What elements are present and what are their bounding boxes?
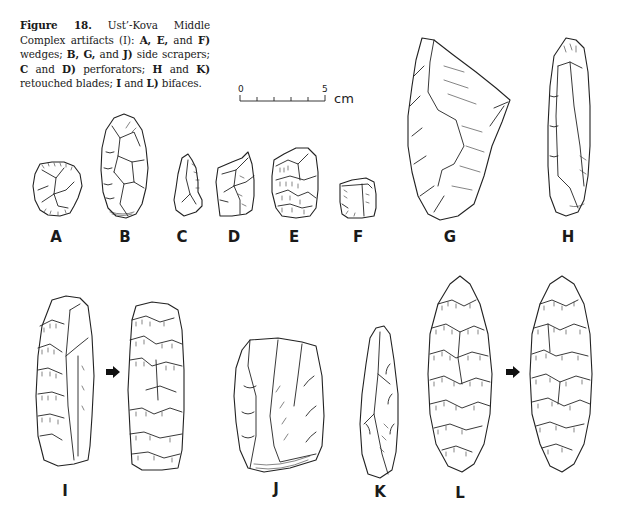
artifact-label-l: L xyxy=(455,484,465,502)
artifact-i-front-drawing xyxy=(34,296,98,468)
artifact-l-back-drawing xyxy=(526,274,598,474)
caption-bold-run: Figure 18. xyxy=(20,19,92,31)
caption-text-run: wedges; xyxy=(20,48,67,60)
caption-text-run: and xyxy=(95,48,123,60)
artifact-l-front-drawing xyxy=(424,274,496,474)
scale-bar: 0 5 cm xyxy=(238,84,358,110)
artifact-label-h: H xyxy=(562,228,575,246)
artifact-g-drawing xyxy=(404,36,516,222)
rotation-arrow-icon xyxy=(106,366,120,378)
artifact-i-back-drawing xyxy=(126,300,190,472)
caption-bold-run: C xyxy=(20,63,28,75)
artifact-j-drawing xyxy=(230,336,330,476)
artifact-f-drawing xyxy=(336,174,380,222)
caption-bold-run: B, G, xyxy=(67,48,96,60)
figure-caption: Figure 18. Ust’-Kova Middle Complex arti… xyxy=(20,18,210,91)
caption-bold-run: J) xyxy=(123,48,133,60)
caption-bold-run: L) xyxy=(147,77,159,89)
caption-bold-run: F) xyxy=(198,34,210,46)
caption-bold-run: D) xyxy=(62,63,76,75)
caption-bold-run: A, E, xyxy=(140,34,168,46)
caption-text-run: and xyxy=(28,63,62,75)
artifact-h-drawing xyxy=(544,36,594,222)
caption-text-run: and xyxy=(121,77,147,89)
artifact-label-d: D xyxy=(228,228,240,246)
caption-text-run: and xyxy=(162,63,196,75)
artifact-label-e: E xyxy=(289,228,299,246)
artifact-e-drawing xyxy=(268,146,323,222)
rotation-arrow-icon xyxy=(506,366,520,378)
scale-unit-label: cm xyxy=(334,91,354,106)
artifact-label-c: C xyxy=(176,228,187,246)
artifact-label-i: I xyxy=(62,482,68,500)
artifact-label-g: G xyxy=(444,228,456,246)
scale-end-label: 5 xyxy=(322,84,328,94)
artifact-c-drawing xyxy=(170,154,206,220)
caption-text-run: side scrapers; xyxy=(133,48,210,60)
artifact-a-drawing xyxy=(30,160,85,220)
scale-start-label: 0 xyxy=(238,84,244,94)
caption-text-run: perforators; xyxy=(76,63,153,75)
caption-text-run: retouched blades; xyxy=(20,77,116,89)
caption-text-run: and xyxy=(168,34,198,46)
artifact-label-a: A xyxy=(50,228,62,246)
artifact-label-k: K xyxy=(374,483,386,501)
artifact-label-j: J xyxy=(273,480,279,498)
caption-bold-run: H xyxy=(153,63,163,75)
artifact-k-drawing xyxy=(352,324,410,480)
caption-bold-run: K) xyxy=(196,63,210,75)
artifact-b-drawing xyxy=(98,112,150,220)
caption-text-run: bifaces. xyxy=(159,77,202,89)
artifact-d-drawing xyxy=(214,150,258,222)
artifact-label-b: B xyxy=(119,228,130,246)
artifact-label-f: F xyxy=(353,228,363,246)
